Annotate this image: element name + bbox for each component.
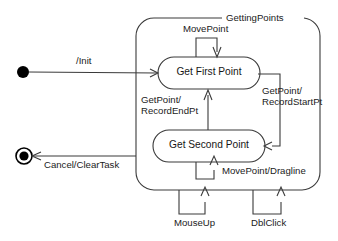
transition-dbl-click[interactable] (253, 187, 285, 214)
transition-get-point-record-end[interactable] (204, 90, 212, 130)
state-label-get-second-point: Get Second Point (153, 139, 265, 150)
transition-label-mouse-up: MouseUp (174, 217, 215, 228)
state-diagram-canvas: GettingPoints Get First Point Get Second… (0, 0, 338, 241)
diagram-vector-layer (0, 0, 338, 241)
transition-label-dbl-click: DblClick (251, 217, 286, 228)
final-state-node[interactable] (16, 148, 32, 164)
transition-mouse-up[interactable] (179, 187, 209, 214)
transition-label-move-point-dragline: MovePoint/Dragline (222, 165, 306, 176)
transition-label-get-point-record-end-line2: RecordEndPt (141, 105, 198, 116)
initial-state-node[interactable] (17, 66, 29, 78)
transition-label-move-point: MovePoint (183, 23, 228, 34)
transition-label-get-point-record-end-line1: GetPoint/ (141, 94, 181, 105)
transition-move-point-first[interactable] (196, 38, 221, 57)
transition-label-get-point-record-start-line1: GetPoint/ (262, 85, 302, 96)
transition-label-get-point-record-start-line2: RecordStartPt (262, 96, 322, 107)
transition-label-init: /Init (76, 55, 91, 66)
transition-init[interactable] (29, 69, 158, 77)
transition-label-cancel-clear-task: Cancel/ClearTask (44, 159, 119, 170)
composite-state-label: GettingPoints (225, 12, 285, 23)
state-label-get-first-point: Get First Point (158, 66, 260, 77)
